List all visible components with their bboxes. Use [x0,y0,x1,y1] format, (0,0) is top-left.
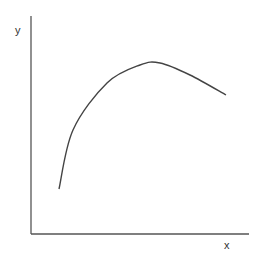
y-axis-label: y [15,24,21,36]
x-axis-label: x [224,239,230,251]
chart-canvas [0,0,266,257]
data-curve [59,62,226,189]
